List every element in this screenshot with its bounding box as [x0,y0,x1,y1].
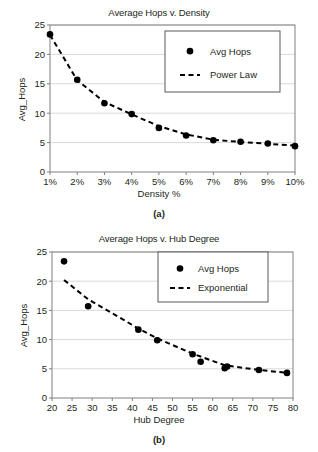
data-point [61,258,68,265]
y-tick-label: 20 [34,49,45,60]
x-tick-label: 55 [187,402,198,413]
data-point [264,140,271,147]
data-point [256,367,263,374]
data-point [47,31,54,38]
x-tick-label: 65 [227,402,238,413]
data-point [189,351,196,358]
y-tick-label: 20 [36,276,47,287]
x-tick-label: 10% [285,176,305,187]
y-tick-label: 5 [40,137,45,148]
legend-label-series-1: Avg Hops [198,263,239,274]
y-tick-label: 10 [34,108,45,119]
x-tick-label: 6% [179,176,193,187]
x-tick-label: 70 [248,402,259,413]
legend-label-series-1: Avg Hops [210,46,251,57]
data-point [154,337,161,344]
data-point [183,132,190,139]
x-axis-title-b: Hub Degree [0,414,318,425]
x-tick-label: 25 [67,402,78,413]
x-axis-title-a: Density % [0,188,318,199]
x-tick-label: 60 [207,402,218,413]
x-tick-label: 7% [206,176,220,187]
x-tick-label: 35 [107,402,118,413]
x-tick-label: 40 [127,402,138,413]
data-point [85,303,92,310]
x-tick-label: 75 [268,402,279,413]
legend-marker-icon [187,48,194,55]
x-tick-label: 45 [147,402,158,413]
data-point [101,100,108,107]
data-point [284,370,291,377]
x-tick-label: 30 [87,402,98,413]
x-tick-label: 8% [234,176,248,187]
x-tick-label: 3% [98,176,112,187]
data-point [237,138,244,145]
x-tick-label: 20 [47,402,58,413]
data-point [135,326,142,333]
x-tick-label: 80 [288,402,299,413]
legend-box-a [165,31,280,92]
y-tick-label: 10 [36,334,47,345]
x-tick-label: 4% [125,176,139,187]
data-point [292,143,299,150]
data-point [197,358,204,365]
y-tick-label: 15 [34,78,45,89]
data-point [74,76,81,83]
legend-marker-icon [177,265,184,272]
data-point [156,125,163,132]
y-tick-label: 25 [36,246,47,257]
x-tick-label: 2% [70,176,84,187]
legend-label-series-2: Exponential [198,282,248,293]
data-point [128,111,135,118]
subfigure-label-a: (a) [0,208,318,219]
x-tick-label: 9% [261,176,275,187]
subfigure-label-b: (b) [0,434,318,445]
y-tick-label: 5 [42,363,47,374]
y-tick-label: 15 [36,305,47,316]
data-point [224,363,231,370]
figure-b: Average Hops v. Hub Degree Avg_Hops 0510… [0,226,318,452]
x-tick-label: 1% [43,176,57,187]
legend-label-series-2: Power Law [210,69,257,80]
data-point [210,137,217,144]
x-tick-label: 5% [152,176,166,187]
figure-a: Average Hops v. Density Avg_Hops 0510152… [0,0,318,226]
x-tick-label: 50 [167,402,178,413]
y-tick-label: 25 [34,19,45,30]
legend-box-b [158,252,268,302]
